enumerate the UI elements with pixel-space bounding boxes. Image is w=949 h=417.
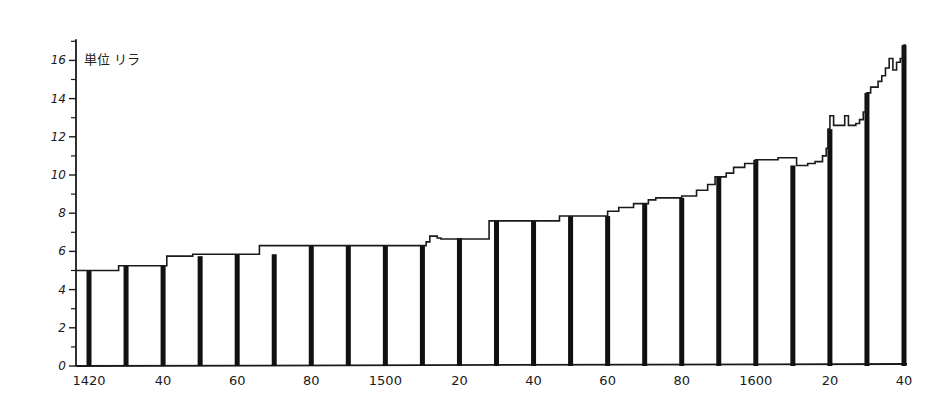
decade-bar <box>531 221 536 366</box>
y-tick-label: 16 <box>51 53 67 67</box>
x-tick-label: 20 <box>451 373 468 388</box>
y-tick-label: 4 <box>58 283 66 297</box>
x-tick-label: 80 <box>303 373 320 388</box>
y-tick-label: 0 <box>58 359 66 373</box>
decade-bar <box>457 238 462 366</box>
x-tick-label: 1500 <box>369 373 402 388</box>
decade-bar <box>161 266 166 366</box>
x-tick-label: 1420 <box>72 373 105 388</box>
x-tick-label: 80 <box>673 373 690 388</box>
y-axis: 0246810121416 <box>51 39 76 373</box>
decade-bar <box>902 45 907 366</box>
decade-bar <box>198 256 203 366</box>
y-tick-label: 8 <box>58 206 66 220</box>
decade-bar <box>309 246 314 366</box>
price-step-line <box>76 45 906 270</box>
decade-bar <box>272 254 277 366</box>
decade-bar <box>346 246 351 366</box>
decade-bar <box>716 177 721 366</box>
decade-bar <box>605 216 610 366</box>
x-tick-label: 20 <box>822 373 839 388</box>
decade-bars <box>87 45 907 366</box>
unit-label: 単位 リラ <box>84 52 140 67</box>
x-tick-label: 60 <box>599 373 616 388</box>
decade-bar <box>679 198 684 366</box>
decade-bar <box>753 160 758 366</box>
price-step-chart: 0246810121416 14204060801500204060801600… <box>0 0 949 417</box>
decade-bar <box>827 129 832 366</box>
y-tick-label: 2 <box>58 321 66 335</box>
y-tick-label: 12 <box>51 130 66 144</box>
y-tick-label: 10 <box>51 168 67 182</box>
x-axis: 142040608015002040608016002040 <box>72 364 912 388</box>
decade-bar <box>790 165 795 366</box>
decade-bar <box>124 266 129 366</box>
x-tick-label: 40 <box>155 373 172 388</box>
decade-bar <box>568 216 573 366</box>
decade-bar <box>383 246 388 366</box>
x-tick-label: 40 <box>525 373 542 388</box>
decade-bar <box>864 93 869 366</box>
decade-bar <box>235 254 240 366</box>
decade-bar <box>420 246 425 366</box>
x-tick-label: 1600 <box>739 373 772 388</box>
x-tick-label: 60 <box>229 373 246 388</box>
decade-bar <box>87 271 92 367</box>
x-tick-label: 40 <box>896 373 913 388</box>
decade-bar <box>642 204 647 366</box>
y-tick-label: 6 <box>58 244 66 258</box>
decade-bar <box>494 221 499 366</box>
y-tick-label: 14 <box>51 92 66 106</box>
